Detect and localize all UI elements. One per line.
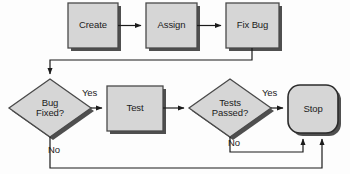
node-shapes: [9, 3, 338, 137]
stop-node[interactable]: [288, 85, 338, 133]
edge-fixbug-bugfixed: [50, 48, 252, 74]
assign-node[interactable]: [146, 3, 197, 48]
flowchart-diagram: [0, 0, 350, 174]
create-node[interactable]: [68, 3, 118, 48]
tests-passed-node[interactable]: [189, 79, 271, 137]
test-node[interactable]: [107, 86, 163, 131]
flowchart-canvas: Create Assign Fix Bug Bug Fixed? Test Te…: [0, 0, 350, 174]
fix-bug-node[interactable]: [226, 3, 279, 48]
edge-testspassed-stop-no: [230, 137, 303, 152]
bug-fixed-node[interactable]: [9, 79, 91, 137]
